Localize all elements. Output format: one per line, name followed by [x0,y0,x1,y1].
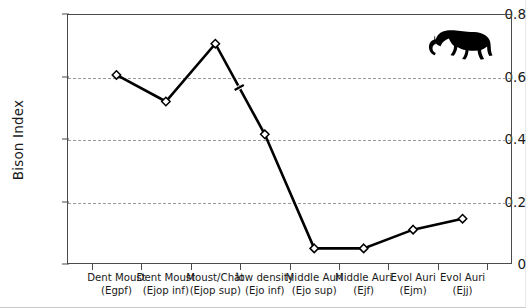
chart-figure: Bison Index 0.80.60.40.20 Dent Moust(Egp… [0,0,526,308]
x-tick-mark [191,264,192,270]
x-tick-mark [339,264,340,270]
x-category-label: Evol Auri(Ejm) [391,271,436,297]
x-category-label: Evol Auri(Ejj) [440,271,485,297]
x-tick-mark [487,264,488,270]
x-category-label-line2: (Ejj) [440,284,485,297]
x-tick-mark [240,264,241,270]
y-axis-title: Bison Index [10,60,26,220]
x-tick-mark [290,264,291,270]
x-tick-mark [438,264,439,270]
bison-silhouette-icon [425,22,503,68]
gridline [68,140,511,141]
x-tick-mark [92,264,93,270]
x-category-label-line2: (Ejm) [391,284,436,297]
gridline [68,78,511,79]
x-category-label-line1: Evol Auri [391,272,436,283]
x-tick-mark [141,264,142,270]
gridline [68,203,511,204]
x-category-label-line1: Evol Auri [440,272,485,283]
x-category-label-line2: (Ejf) [335,284,392,297]
x-tick-mark [388,264,389,270]
x-category-label-line1: Middle Auri [335,272,392,283]
x-category-label: Middle Auri(Ejf) [335,271,392,297]
